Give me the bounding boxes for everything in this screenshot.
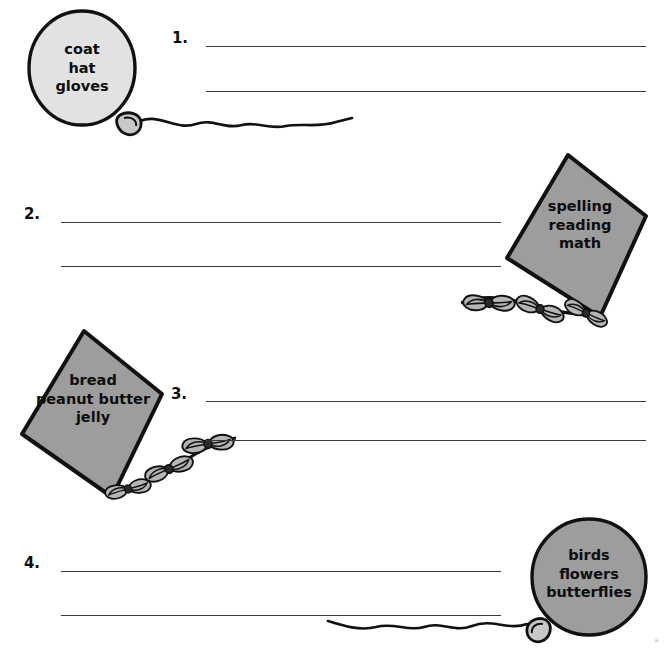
answer-line-2b[interactable]	[61, 266, 501, 267]
balloon-4-words: birds flowers butterflies	[524, 546, 654, 602]
item-number-1: 1.	[172, 29, 188, 47]
kite-2-words: spelling reading math	[528, 197, 632, 253]
kite-tail-icon-2	[462, 290, 610, 329]
item-number-4: 4.	[24, 554, 40, 572]
answer-line-4a[interactable]	[61, 571, 501, 572]
balloon-knot-icon-4	[527, 619, 550, 642]
answer-line-3a[interactable]	[206, 401, 646, 402]
balloon-knot-icon-1	[117, 113, 141, 135]
corner-mark: ≡	[654, 636, 659, 643]
item-number-3: 3.	[171, 385, 187, 403]
answer-line-1b[interactable]	[206, 91, 646, 92]
answer-line-1a[interactable]	[206, 46, 646, 47]
kite-3-words: bread peanut butter jelly	[15, 371, 171, 427]
item-number-2: 2.	[24, 205, 40, 223]
balloon-1-words: coat hat gloves	[32, 40, 132, 96]
worksheet-page: 1. coat hat gloves 2. spelling reading m…	[0, 0, 667, 663]
answer-line-3b[interactable]	[206, 440, 646, 441]
answer-line-4b[interactable]	[61, 615, 501, 616]
answer-line-2a[interactable]	[61, 222, 501, 223]
